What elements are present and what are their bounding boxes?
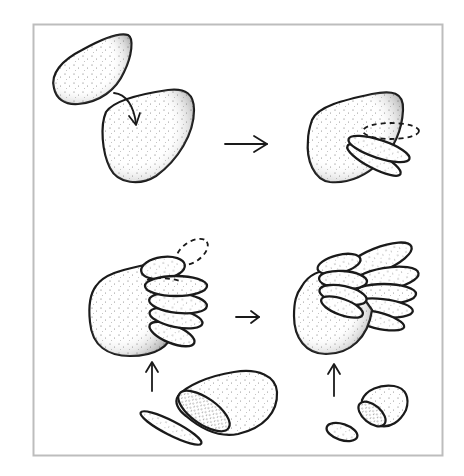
feather-stack-2 [145, 276, 207, 296]
wing-sculpting-illustration [0, 0, 464, 476]
illustration-canvas [0, 0, 464, 476]
